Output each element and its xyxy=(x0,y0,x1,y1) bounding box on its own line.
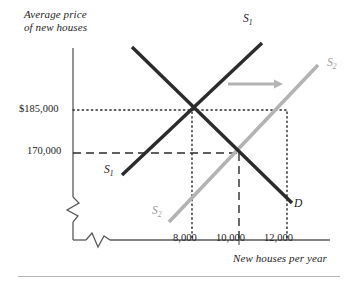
curve-label-s2-top-subscript: 2 xyxy=(333,62,337,71)
y-axis-tick-label-170000: 170,000 xyxy=(27,145,61,157)
y-axis-title-line1: Average price xyxy=(24,8,87,21)
curve-label-s1-bottom-subscript: 1 xyxy=(110,169,114,178)
y-axis-break-icon xyxy=(67,197,79,222)
bottom-divider xyxy=(18,276,340,277)
curve-label-s1-top: S1 xyxy=(243,12,253,28)
curve-label-s1-top-subscript: 1 xyxy=(249,18,253,27)
y-axis-tick-label-185000: $185,000 xyxy=(19,103,58,115)
x-axis-tick-label-10000: 10,000 xyxy=(216,232,245,244)
x-axis-title: New houses per year xyxy=(233,252,327,265)
curve-label-s2-top: S2 xyxy=(327,56,337,72)
x-axis-tick-label-12000: 12,000 xyxy=(264,232,293,244)
y-axis-title-line2: of new houses xyxy=(24,21,87,34)
x-axis-tick-label-8000: 8,000 xyxy=(173,232,197,244)
curve-label-s1-bottom: S1 xyxy=(104,163,114,179)
curve-label-s2-bottom-subscript: 2 xyxy=(158,210,162,219)
y-axis-title: Average price of new houses xyxy=(24,8,87,34)
x-axis-break-icon xyxy=(86,233,110,247)
supply-shift-arrow-icon xyxy=(228,80,283,89)
figure-container: Average price of new houses $185,000 170… xyxy=(0,0,358,285)
demand-curve-d xyxy=(132,47,292,203)
curve-label-s2-bottom: S2 xyxy=(152,204,162,220)
curve-label-d: D xyxy=(294,197,302,211)
